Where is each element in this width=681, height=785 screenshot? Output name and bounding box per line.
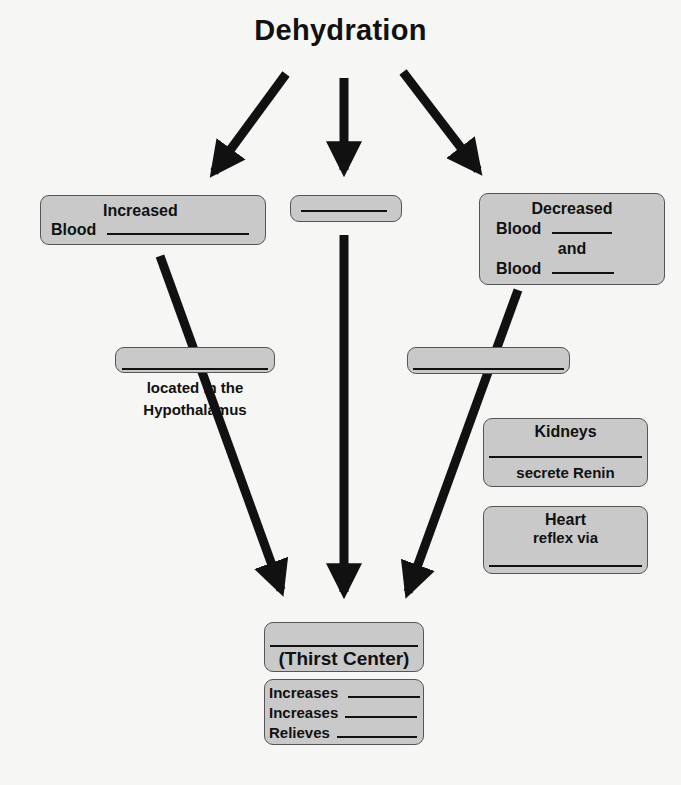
blood-label: Blood: [496, 260, 541, 277]
blank-line[interactable]: [122, 368, 268, 370]
hypothalamus-text: Hypothalamus: [110, 399, 280, 421]
effect-item: Increases: [269, 683, 423, 703]
effect-label: Increases: [269, 684, 338, 701]
blank-line[interactable]: [552, 231, 612, 234]
heart-title: Heart: [484, 511, 647, 529]
blank-line[interactable]: [270, 645, 418, 647]
blood-label: Blood: [496, 220, 541, 237]
effect-item: Increases: [269, 703, 423, 723]
arrow-to-increased-blood: [214, 74, 286, 172]
secrete-renin-text: secrete Renin: [484, 464, 647, 481]
box-thirst-center: (Thirst Center): [264, 622, 424, 672]
located-text: located in the: [110, 377, 280, 399]
decreased-label: Decreased: [480, 200, 664, 218]
arrow-to-decreased-blood: [403, 72, 478, 170]
increased-label: Increased: [103, 202, 178, 220]
blank-line[interactable]: [107, 232, 249, 235]
reflex-via-text: reflex via: [484, 529, 647, 546]
blank-line[interactable]: [337, 735, 417, 738]
blank-line[interactable]: [552, 271, 614, 274]
blood-label: Blood: [51, 221, 96, 238]
blank-line[interactable]: [413, 368, 564, 370]
blank-line[interactable]: [489, 565, 642, 567]
box-decreased-blood: Decreased Blood and Blood: [479, 193, 665, 285]
box-center-blank: [290, 195, 402, 222]
thirst-center-label: (Thirst Center): [265, 648, 423, 670]
box-kidneys: Kidneys secrete Renin: [483, 418, 648, 487]
osmo-caption: located in the Hypothalamus: [110, 377, 280, 421]
blank-line[interactable]: [345, 715, 417, 718]
box-baroreceptors: [407, 347, 570, 374]
box-osmoreceptors: [115, 347, 275, 373]
box-heart: Heart reflex via: [483, 506, 648, 574]
kidneys-title: Kidneys: [484, 423, 647, 441]
blank-line[interactable]: [348, 695, 420, 698]
box-effects: Increases Increases Relieves: [264, 679, 424, 745]
arrow-left-to-thirst: [160, 256, 281, 590]
effect-item: Relieves: [269, 723, 423, 743]
effect-label: Relieves: [269, 724, 330, 741]
blank-line[interactable]: [301, 210, 387, 212]
effect-label: Increases: [269, 704, 338, 721]
and-label: and: [480, 240, 664, 258]
blank-line[interactable]: [489, 456, 642, 458]
box-increased-blood: Increased Blood: [40, 195, 266, 245]
